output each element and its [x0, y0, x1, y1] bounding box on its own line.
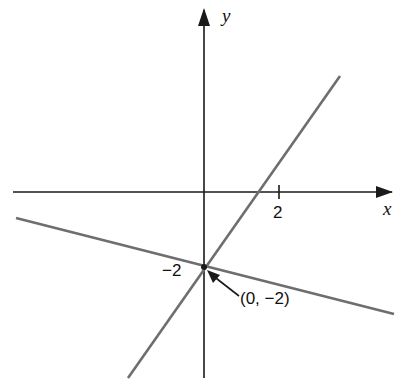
coordinate-diagram — [0, 0, 401, 383]
y-axis-arrow-icon — [198, 8, 210, 26]
point-label: (0, −2) — [240, 290, 290, 307]
y-tick-label: −2 — [162, 262, 181, 279]
x-axis-arrow-icon — [376, 186, 393, 198]
x-tick-label: 2 — [273, 204, 282, 221]
intersection-point — [201, 264, 207, 270]
point-pointer-arrowhead-icon — [207, 270, 220, 283]
steep-line — [128, 76, 340, 378]
y-axis-label: y — [222, 6, 230, 25]
x-axis-label: x — [383, 199, 391, 218]
